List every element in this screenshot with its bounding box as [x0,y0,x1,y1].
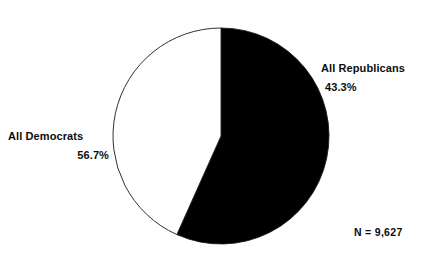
republicans-series-value: 43.3% [325,81,405,94]
republicans-series-name: All Republicans [321,62,405,75]
pie-label-democrats: All Democrats 56.7% [8,130,109,162]
pie-label-republicans: All Republicans 43.3% [321,62,405,94]
pie-chart: All Republicans 43.3% All Democrats 56.7… [0,0,426,262]
democrats-series-name: All Democrats [8,130,109,143]
democrats-series-value: 56.7% [8,149,109,162]
sample-size-annotation: N = 9,627 [354,226,403,239]
